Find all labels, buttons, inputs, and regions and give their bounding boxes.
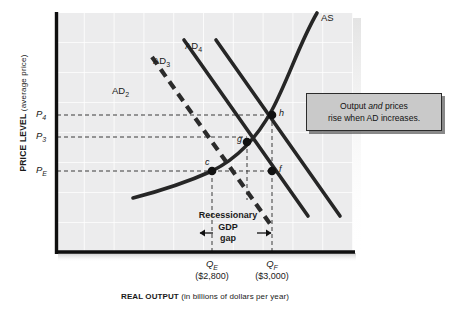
y-tick-p3: P3 [36, 130, 46, 143]
point-g [243, 138, 252, 147]
y-tick-pe: PE [36, 164, 47, 177]
point-label-h: h [279, 108, 284, 118]
callout-line1-a: Output [340, 101, 368, 111]
y-tick-p4: P4 [36, 108, 46, 121]
x-tick-qf: QF [242, 258, 302, 271]
x-tick-qe-value: ($2,800) [182, 271, 242, 281]
curve-label-ad4: AD4 [185, 40, 202, 53]
plot-shadow-right [353, 18, 361, 258]
point-c [208, 167, 217, 176]
point-h [268, 111, 277, 120]
y-axis-title: PRICE LEVEL (average price) [18, 28, 28, 198]
point-f [268, 167, 277, 176]
x-axis-title: REAL OUTPUT (in billions of dollars per … [55, 292, 355, 301]
gap-line-1: Recessionary [182, 210, 274, 222]
gap-line-2: ←GDP→ [182, 222, 274, 234]
callout-line1-b: prices [383, 101, 408, 111]
x-tick-qe: QE [182, 258, 242, 271]
gap-line-3: gap [182, 233, 274, 245]
recessionary-gap-label: Recessionary ←GDP→ gap [182, 210, 274, 245]
callout-line2: rise when AD increases. [328, 113, 420, 123]
callout-box: Output and prices rise when AD increases… [306, 93, 442, 131]
curve-label-ad2: AD2 [112, 85, 129, 98]
point-label-f: f [279, 164, 282, 174]
callout-line1-emphasis: and [368, 101, 382, 111]
point-label-g: g [237, 134, 242, 144]
curve-label-as: AS [321, 12, 334, 23]
curve-label-ad3: AD3 [153, 55, 170, 68]
point-label-c: c [205, 157, 210, 167]
x-tick-qf-value: ($3,000) [242, 271, 302, 281]
